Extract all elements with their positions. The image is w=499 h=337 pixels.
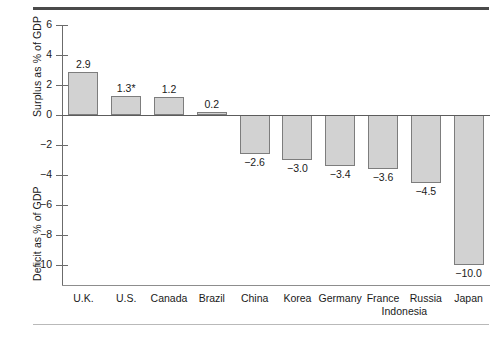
bottom-rule [33, 324, 489, 325]
y-tick-label: 4 [20, 48, 52, 60]
y-tick-mark [56, 235, 68, 236]
bar-value-label: −2.6 [232, 156, 278, 168]
bar [240, 115, 270, 154]
y-tick-label: 0 [20, 108, 52, 120]
y-tick-mark [56, 175, 68, 176]
bar [411, 115, 441, 183]
y-tick-mark [56, 85, 68, 86]
x-axis-line [62, 285, 490, 286]
bar-value-label: −10.0 [446, 267, 492, 279]
y-tick-label: −10 [20, 258, 52, 270]
bar-value-label: −3.4 [317, 168, 363, 180]
bar [111, 96, 141, 116]
bar-value-label: 0.2 [189, 98, 235, 110]
y-tick-label: −4 [20, 168, 52, 180]
bar-value-label: 2.9 [60, 58, 106, 70]
bar [325, 115, 355, 166]
x-category-label: Japan [437, 292, 499, 304]
bar-value-label: 1.3* [103, 82, 149, 94]
figure-container: Surplus as % of GDP Deficit as % of GDP … [0, 0, 499, 337]
bar [368, 115, 398, 169]
y-tick-mark [56, 55, 68, 56]
bar-value-label: −3.6 [360, 171, 406, 183]
y-axis-label-surplus: Surplus as % of GDP [31, 16, 43, 117]
bar [154, 97, 184, 115]
y-tick-label: 6 [20, 18, 52, 30]
bar [454, 115, 484, 265]
bar [282, 115, 312, 160]
y-tick-mark [56, 205, 68, 206]
bar-value-label: −4.5 [403, 185, 449, 197]
bar-value-label: −3.0 [274, 162, 320, 174]
y-tick-mark [56, 265, 68, 266]
x-category-label-indonesia: Indonesia [369, 305, 439, 317]
bar [68, 72, 98, 116]
y-tick-mark [56, 25, 68, 26]
top-rule [33, 7, 489, 10]
y-tick-label: 2 [20, 78, 52, 90]
y-tick-label: −8 [20, 228, 52, 240]
bar-value-label: 1.2 [146, 83, 192, 95]
y-tick-label: −6 [20, 198, 52, 210]
y-tick-mark [56, 145, 68, 146]
zero-baseline [62, 115, 490, 116]
y-tick-label: −2 [20, 138, 52, 150]
